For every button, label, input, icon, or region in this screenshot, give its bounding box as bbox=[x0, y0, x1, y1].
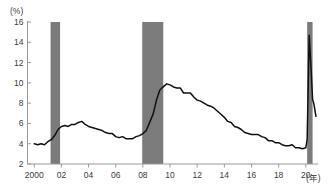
x-tick-label: 04 bbox=[84, 170, 94, 180]
y-tick-label: 4 bbox=[19, 139, 24, 149]
y-tick-label: 8 bbox=[19, 98, 24, 108]
x-tick-label: 14 bbox=[220, 170, 230, 180]
recession-bands-group bbox=[51, 22, 313, 164]
x-tick-label: 02 bbox=[57, 170, 67, 180]
x-tick-label: 18 bbox=[274, 170, 284, 180]
recession-2001-band bbox=[51, 22, 61, 164]
y-tick-label: 10 bbox=[14, 78, 24, 88]
y-axis-ticks-group: 246810121416 bbox=[14, 17, 31, 169]
x-axis-unit-label: (年) bbox=[306, 173, 321, 183]
x-tick-label: 16 bbox=[247, 170, 257, 180]
x-tick-label: 12 bbox=[192, 170, 202, 180]
x-tick-label: 10 bbox=[165, 170, 175, 180]
x-tick-label: 2000 bbox=[25, 170, 44, 180]
x-tick-label: 08 bbox=[138, 170, 148, 180]
chart-page: 246810121416 200002040608101214161820 (%… bbox=[0, 0, 332, 193]
y-tick-label: 12 bbox=[14, 58, 24, 68]
y-axis-unit-label: (%) bbox=[10, 6, 23, 16]
x-tick-label: 06 bbox=[111, 170, 121, 180]
data-line-group bbox=[34, 35, 316, 149]
unemployment-rate-line bbox=[34, 35, 316, 149]
y-tick-label: 2 bbox=[19, 159, 24, 169]
y-tick-label: 6 bbox=[19, 118, 24, 128]
y-tick-label: 16 bbox=[14, 17, 24, 27]
y-tick-label: 14 bbox=[14, 37, 24, 47]
recession-2008-2009-band bbox=[142, 22, 163, 164]
x-axis-ticks-group: 200002040608101214161820 bbox=[25, 164, 311, 180]
unemployment-rate-line-chart: 246810121416 200002040608101214161820 (%… bbox=[0, 0, 332, 193]
